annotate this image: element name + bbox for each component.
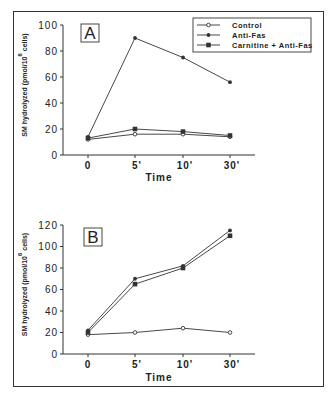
y-axis-title: SM hydrolyzed (pmol/106 cells) [17, 33, 29, 136]
data-point [133, 277, 137, 281]
y-tick-label: 40 [45, 306, 58, 317]
y-tick-label: 80 [45, 46, 58, 57]
x-tick-label: 30' [224, 359, 241, 370]
data-point [181, 129, 186, 134]
legend-label: Carnitine + Anti-Fas [232, 41, 313, 50]
legend: ControlAnti-FasCarnitine + Anti-Fas [193, 18, 313, 52]
x-tick-label: 30' [224, 160, 241, 171]
data-point [133, 132, 137, 136]
y-tick-label: 60 [45, 284, 58, 295]
y-tick-label: 60 [45, 72, 58, 83]
data-point [133, 127, 138, 132]
data-point [86, 330, 91, 335]
y-tick-label: 80 [45, 263, 58, 274]
panel-letter: B [87, 228, 98, 247]
y-tick-label: 120 [38, 220, 58, 231]
legend-marker [206, 43, 211, 48]
y-axis-title: SM hydrolyzed (pmol/106 cells) [17, 233, 29, 336]
figure-svg: 02040608010005'10'30'TimeSM hydrolyzed (… [0, 0, 334, 399]
x-tick-label: 0 [85, 359, 92, 370]
series-line-control [88, 328, 230, 334]
data-point [228, 133, 233, 138]
data-point [133, 331, 137, 335]
legend-marker [207, 33, 211, 37]
y-tick-label: 40 [45, 98, 58, 109]
data-point [181, 326, 185, 330]
data-point [181, 266, 186, 271]
series-line-control [88, 134, 230, 139]
y-tick-label: 100 [38, 241, 58, 252]
x-axis-title: Time [145, 372, 172, 383]
data-point [228, 80, 232, 84]
panel-letter: A [84, 24, 96, 43]
x-tick-label: 0 [85, 160, 92, 171]
x-tick-label: 10' [177, 359, 194, 370]
y-tick-label: 0 [51, 349, 58, 360]
x-tick-label: 5' [132, 160, 142, 171]
data-point [181, 56, 185, 60]
data-point [86, 136, 91, 141]
series-line-carnitine-anti-fas [88, 236, 230, 333]
legend-marker [207, 23, 211, 27]
series-line-anti-fas [88, 38, 230, 137]
y-tick-label: 20 [45, 124, 58, 135]
y-tick-label: 100 [38, 20, 58, 31]
data-point [228, 228, 232, 232]
y-tick-label: 20 [45, 327, 58, 338]
x-tick-label: 10' [177, 160, 194, 171]
x-tick-label: 5' [132, 359, 142, 370]
legend-label: Anti-Fas [232, 31, 266, 40]
panel-b: 02040608010012005'10'30'TimeSM hydrolyze… [17, 220, 255, 384]
series-line-anti-fas [88, 230, 230, 330]
data-point [133, 36, 137, 40]
legend-label: Control [232, 21, 262, 30]
data-point [228, 233, 233, 238]
data-point [228, 331, 232, 335]
x-axis-title: Time [145, 172, 172, 183]
y-tick-label: 0 [51, 150, 58, 161]
data-point [133, 282, 138, 287]
